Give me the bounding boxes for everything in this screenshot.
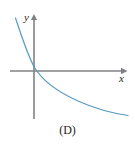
y-axis-label: y	[24, 12, 29, 23]
figure-panel: y x (D)	[0, 0, 135, 147]
x-axis	[10, 68, 128, 74]
exponential-decay-curve	[16, 18, 129, 116]
x-axis-label: x	[119, 73, 124, 84]
panel-caption: (D)	[0, 124, 135, 136]
